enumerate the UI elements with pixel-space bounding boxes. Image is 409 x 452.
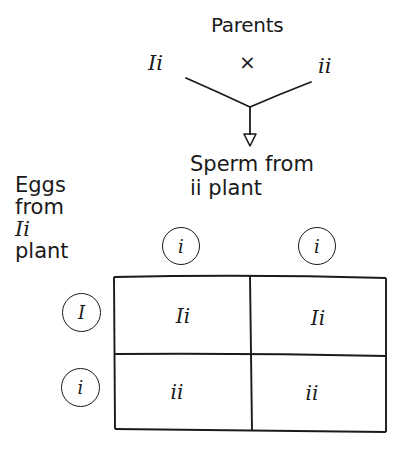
parent-right-genotype: ii: [318, 56, 331, 77]
columns-label: Sperm from ii plant: [190, 152, 314, 200]
rows-label: Eggs from Ii plant: [15, 174, 69, 262]
cross-symbol: ×: [239, 52, 256, 72]
rows-label-line1: Eggs: [15, 174, 69, 196]
column-allele-2: i: [298, 227, 336, 265]
diagram-title: Parents: [211, 15, 283, 35]
rows-label-line2: from: [15, 196, 69, 218]
cell-r1-c1: Ii: [176, 304, 190, 328]
punnett-grid: [114, 276, 386, 432]
column-allele-1: i: [162, 227, 200, 265]
arrowhead-icon: [244, 134, 256, 146]
columns-label-line2: ii plant: [190, 176, 314, 200]
parent-left-line: [186, 78, 250, 107]
cell-r1-c2: Ii: [311, 306, 325, 330]
row-allele-2: i: [61, 368, 100, 407]
cell-r2-c2: ii: [306, 381, 319, 405]
columns-label-line1: Sperm from: [190, 152, 314, 176]
row-allele-1: I: [62, 293, 101, 332]
rows-label-line3: Ii: [15, 218, 69, 240]
rows-label-line4: plant: [15, 240, 69, 262]
cell-r2-c1: ii: [171, 380, 184, 404]
parent-right-line: [250, 82, 311, 107]
parent-left-genotype: Ii: [148, 53, 163, 74]
